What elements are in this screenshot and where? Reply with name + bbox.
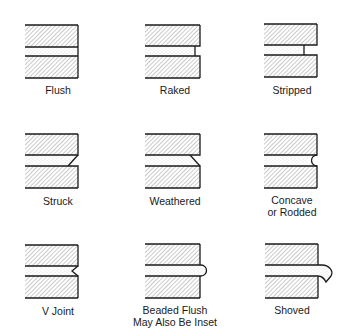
joint-label: Concave [234, 194, 350, 206]
joint-label: Flush [0, 84, 116, 96]
joint-flush: Flush [0, 0, 116, 110]
shoved-joint-diagram [234, 225, 350, 336]
joint-concave: Concave or Rodded [234, 110, 350, 225]
joint-label: V Joint [0, 305, 116, 317]
joint-struck: Struck [0, 110, 116, 225]
joint-label: Stripped [234, 84, 350, 96]
joint-weathered: Weathered [117, 110, 233, 225]
joint-v-joint: V Joint [0, 225, 116, 336]
v-joint-diagram [0, 225, 116, 336]
joint-label-line2: or Rodded [234, 206, 350, 218]
joint-label-line2: May Also Be Inset [117, 316, 233, 328]
joint-label: Struck [0, 195, 116, 207]
joint-shoved: Shoved [234, 225, 350, 336]
joint-label: Raked [117, 84, 233, 96]
struck-joint-diagram [0, 110, 116, 225]
weathered-joint-diagram [117, 110, 233, 225]
joint-raked: Raked [117, 0, 233, 110]
joint-beaded: Beaded Flush May Also Be Inset [117, 225, 233, 336]
joint-label: Weathered [117, 195, 233, 207]
joint-stripped: Stripped [234, 0, 350, 110]
joint-label: Shoved [234, 304, 350, 316]
joint-label: Beaded Flush [117, 304, 233, 316]
